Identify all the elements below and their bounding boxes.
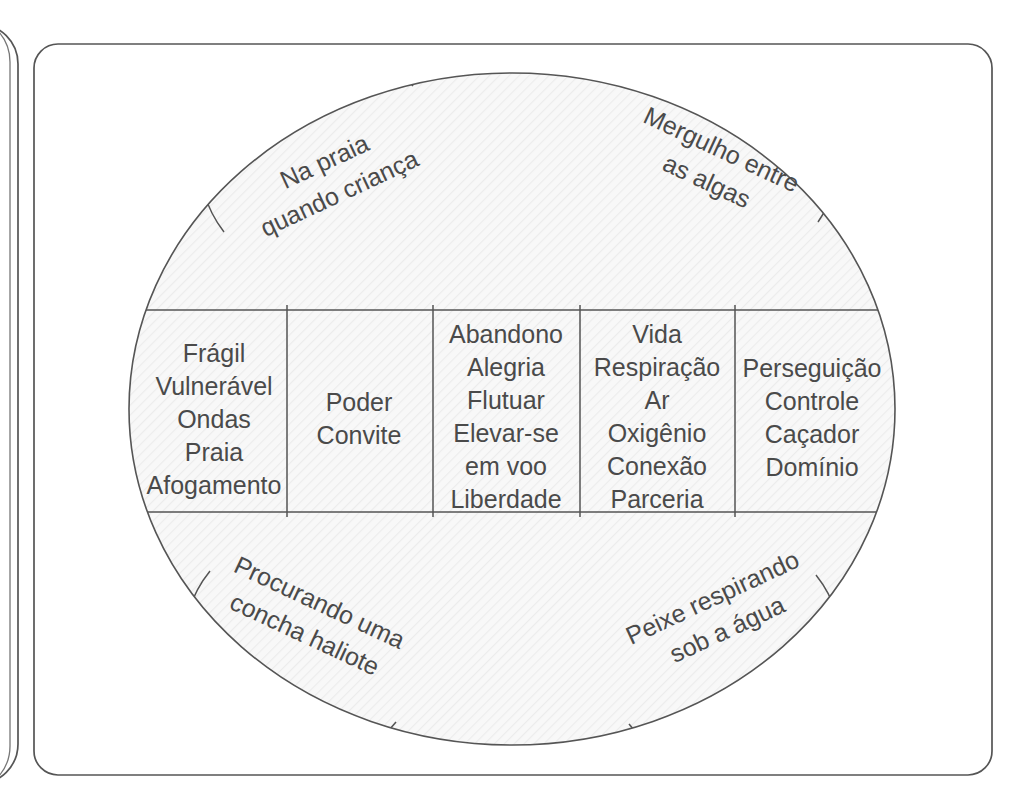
column-1-line-3: Ondas [177,405,251,433]
adjacent-page-fragment [0,16,18,792]
diagram-page: Na praia quando criança Mergulho entre a… [0,0,1022,807]
column-1-line-1: Frágil [183,339,246,367]
column-4-line-5: Conexão [607,452,707,480]
column-2-line-2: Convite [317,421,402,449]
column-3-line-1: Abandono [449,320,563,348]
column-3-line-2: Alegria [467,353,545,381]
column-5-line-1: Perseguição [743,354,882,382]
diagram-canvas: Na praia quando criança Mergulho entre a… [0,0,1022,807]
column-4-line-4: Oxigênio [608,419,707,447]
column-4-line-2: Respiração [594,353,720,381]
column-1-line-4: Praia [185,438,243,466]
column-4-line-1: Vida [632,320,682,348]
column-5-line-3: Caçador [765,420,860,448]
column-3-line-5: em voo [465,452,547,480]
column-4-line-3: Ar [645,386,670,414]
column-3-line-6: Liberdade [450,485,561,513]
column-1-line-5: Afogamento [147,471,282,499]
column-3-line-4: Elevar-se [453,419,559,447]
column-5-line-2: Controle [765,387,860,415]
column-1-line-2: Vulnerável [155,372,272,400]
column-4-line-6: Parceria [610,485,703,513]
column-5-line-4: Domínio [765,453,858,481]
column-2-line-1: Poder [326,388,393,416]
column-3-line-3: Flutuar [467,386,545,414]
